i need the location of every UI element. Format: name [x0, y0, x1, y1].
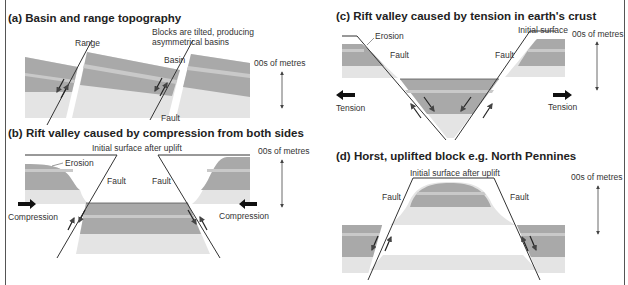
label-blocks-note-1: Blocks are tilted, producing: [152, 27, 254, 37]
panel-d-horst: (d) Horst, uplifted block e.g. North Pen…: [336, 150, 623, 285]
panel-b-rift-compression: (b) Rift valley caused by compression fr…: [8, 127, 310, 258]
panel-c-title: (c) Rift valley caused by tension in ear…: [336, 10, 596, 22]
panel-b-left-block: [25, 164, 88, 204]
panel-a-scale-label: 00s of metres: [254, 58, 306, 68]
panel-a-left-block: [25, 57, 78, 118]
panel-c-scale-label: 00s of metres: [572, 29, 624, 39]
panel-b-centre-block: [76, 203, 210, 254]
label-initial-surface: Initial surface after uplift: [410, 168, 500, 178]
panel-a-right-block: [176, 54, 250, 118]
panel-b-title: (b) Rift valley caused by compression fr…: [8, 127, 304, 139]
panel-a-basin-and-range: (a) Basin and range topography Range Bl: [8, 12, 306, 125]
label-basin: Basin: [164, 55, 186, 65]
panel-b-scale-label: 00s of metres: [258, 146, 310, 156]
label-initial-surface: Initial surface after uplift: [92, 143, 182, 153]
label-compression-right: Compression: [219, 211, 269, 221]
label-compression-left: Compression: [8, 212, 58, 222]
panel-d-scale-label: 00s of metres: [571, 172, 623, 182]
tension-arrow-left-icon: [336, 90, 355, 100]
label-erosion: Erosion: [375, 31, 404, 41]
panel-a-title: (a) Basin and range topography: [8, 12, 182, 24]
panel-b-right-block: [192, 157, 250, 204]
panel-c-right-block: [505, 39, 565, 77]
geology-diagram: (a) Basin and range topography Range Bl: [0, 0, 628, 285]
label-fault-right: Fault: [510, 192, 530, 202]
label-fault-left: Fault: [390, 50, 410, 60]
label-erosion: Erosion: [65, 158, 94, 168]
label-fault-left: Fault: [107, 176, 127, 186]
label-fault-left: Fault: [382, 192, 402, 202]
label-fault: Fault: [161, 113, 181, 123]
panel-c-rift-tension: (c) Rift valley caused by tension in ear…: [336, 10, 624, 140]
label-initial-surface: Initial surface: [518, 25, 568, 35]
label-tension-left: Tension: [336, 103, 366, 113]
label-tension-right: Tension: [548, 102, 578, 112]
label-fault-right: Fault: [152, 176, 172, 186]
label-blocks-note-2: asymmetrical basins: [152, 37, 229, 47]
label-range: Range: [75, 38, 100, 48]
label-fault-right: Fault: [495, 50, 515, 60]
tension-arrow-right-icon: [553, 90, 572, 100]
panel-d-title: (d) Horst, uplifted block e.g. North Pen…: [336, 150, 576, 162]
